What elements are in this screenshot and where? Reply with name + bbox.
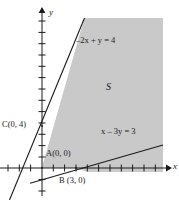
point-marker-b — [75, 167, 77, 169]
y-axis-label: y — [49, 8, 53, 17]
point-marker-a — [41, 167, 43, 169]
y-axis-arrow — [39, 7, 46, 13]
equation-label-line-1: –2x + y = 4 — [76, 36, 115, 45]
math-figure: y x –2x + y = 4 x – 3y = 3 S A(0, 0) B (… — [0, 0, 179, 200]
graph-canvas — [0, 0, 179, 200]
point-label-a: A(0, 0) — [46, 149, 71, 158]
point-marker-c — [41, 125, 43, 127]
region-label-s: S — [106, 82, 111, 92]
point-label-b: B (3, 0) — [59, 176, 85, 185]
x-axis-label: x — [173, 162, 177, 171]
point-label-c: C(0, 4) — [2, 120, 26, 129]
equation-label-line-2: x – 3y = 3 — [101, 127, 136, 136]
